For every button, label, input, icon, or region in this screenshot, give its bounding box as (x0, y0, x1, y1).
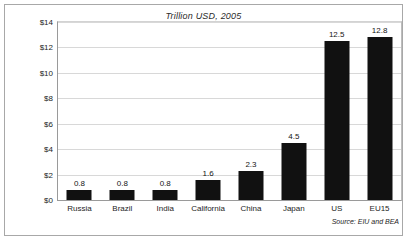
bar[interactable] (367, 37, 392, 200)
bar-group: 0.8Brazil (101, 22, 144, 200)
bar-series: 0.8Russia0.8Brazil0.8India1.6California2… (58, 22, 401, 200)
bar-group: 1.6California (187, 22, 230, 200)
x-axis-tick-label: California (191, 204, 225, 213)
bar-value-label: 12.8 (372, 26, 388, 35)
y-axis-tick-label: $6 (44, 119, 53, 128)
bar[interactable] (67, 190, 92, 200)
bar[interactable] (238, 171, 263, 200)
bar[interactable] (196, 180, 221, 200)
y-axis-tick-label: $0 (44, 196, 53, 205)
bar-group: 2.3China (230, 22, 273, 200)
plot-area: $0$2$4$6$8$10$12$14 0.8Russia0.8Brazil0.… (57, 21, 402, 201)
bar-group: 12.8EU15 (358, 22, 401, 200)
bar-value-label: 0.8 (160, 179, 171, 188)
bar[interactable] (153, 190, 178, 200)
x-axis-tick-label: Russia (67, 204, 91, 213)
bar-value-label: 4.5 (288, 132, 299, 141)
x-axis-tick-label: China (240, 204, 261, 213)
y-axis-tick-label: $10 (40, 68, 53, 77)
bar[interactable] (324, 41, 349, 200)
bar-value-label: 2.3 (245, 160, 256, 169)
x-axis-tick-label: Japan (283, 204, 305, 213)
chart-title: Trillion USD, 2005 (5, 11, 402, 21)
x-axis-tick-label: Brazil (112, 204, 132, 213)
y-axis-tick-label: $4 (44, 145, 53, 154)
y-axis-tick-label: $14 (40, 18, 53, 27)
x-axis-tick-label: EU15 (370, 204, 390, 213)
bar-group: 0.8Russia (58, 22, 101, 200)
bar-value-label: 12.5 (329, 30, 345, 39)
x-axis-tick-label: India (157, 204, 174, 213)
bar-group: 0.8India (144, 22, 187, 200)
bar-value-label: 0.8 (74, 179, 85, 188)
y-axis-tick-label: $8 (44, 94, 53, 103)
bar-value-label: 0.8 (117, 179, 128, 188)
bar-value-label: 1.6 (203, 169, 214, 178)
bar[interactable] (110, 190, 135, 200)
y-axis-tick-label: $12 (40, 43, 53, 52)
bar[interactable] (281, 143, 306, 200)
x-axis-tick-label: US (331, 204, 342, 213)
bar-group: 4.5Japan (272, 22, 315, 200)
chart-figure: Trillion USD, 2005 $0$2$4$6$8$10$12$14 0… (4, 4, 403, 236)
bar-group: 12.5US (315, 22, 358, 200)
y-axis-tick-label: $2 (44, 170, 53, 179)
source-note: Source: EIU and BEA (332, 218, 399, 225)
